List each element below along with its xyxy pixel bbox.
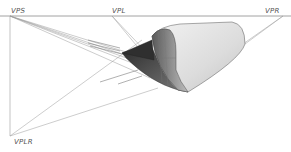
vpr-label: VPR [265,7,280,15]
vps-construction-lines [10,16,150,78]
vpr-construction-line-2 [245,16,283,44]
vps-label: VPS [11,7,26,15]
arch-object [122,22,245,92]
perspective-diagram: VPS VPL VPR VPLR [0,0,291,152]
vplr-label: VPLR [14,138,33,146]
vpl-label: VPL [112,7,126,15]
